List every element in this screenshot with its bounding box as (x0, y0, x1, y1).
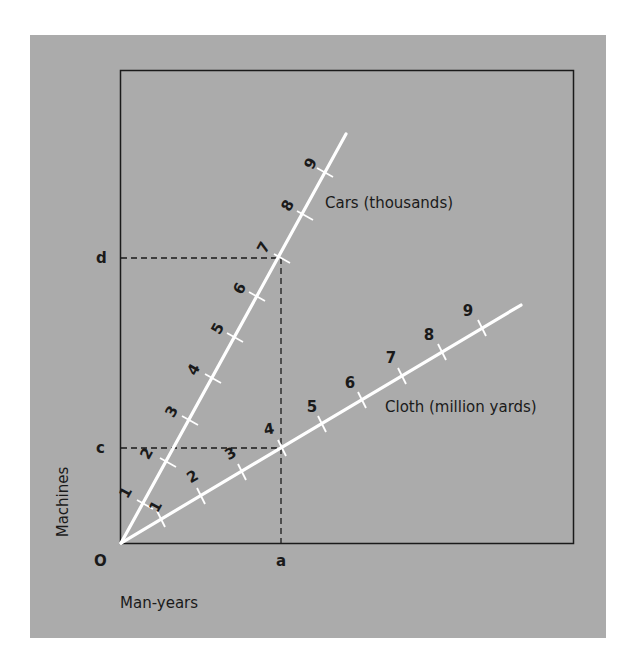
cloth-tick-5: 5 (307, 398, 317, 416)
production-diagram: 1 2 3 4 5 6 7 8 9 1 2 3 4 5 6 7 8 9 Cars… (0, 0, 629, 670)
cloth-label: Cloth (million yards) (385, 398, 537, 416)
x-mark-a: a (276, 552, 286, 570)
cloth-tick-6: 6 (345, 374, 355, 392)
cars-label: Cars (thousands) (325, 194, 453, 212)
y-mark-c: c (96, 439, 105, 457)
origin-label: O (94, 552, 107, 570)
cloth-tick-9: 9 (463, 302, 473, 320)
cloth-tick-8: 8 (424, 326, 434, 344)
y-mark-d: d (96, 249, 107, 267)
x-axis-title: Man-years (120, 594, 198, 612)
cloth-tick-7: 7 (386, 349, 396, 367)
y-axis-title: Machines (54, 467, 72, 538)
diagram-panel (30, 35, 606, 638)
